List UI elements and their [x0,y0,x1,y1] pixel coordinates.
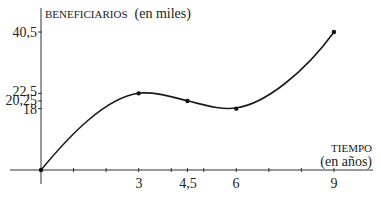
data-point [136,91,140,95]
y-axis-label-caps: BENEFICIARIOS [45,8,128,20]
x-tick-label-3: 3 [136,176,143,191]
data-point [234,106,238,110]
data-points [39,30,336,172]
x-axis-label-unit: (en años) [320,154,372,170]
y-axis-label-unit: (en miles) [135,6,192,22]
y-tick-label-40-5: 40,5 [13,25,38,40]
data-point [332,30,336,34]
chart-canvas: 3 4,5 6 9 40,5 22,5 20,25 18 BENEFICIARI… [0,0,381,198]
x-tick-label-6: 6 [233,176,240,191]
x-tick-label-9: 9 [331,176,338,191]
y-tick-label-18: 18 [23,102,37,117]
data-point [39,168,43,172]
y-axis-label: BENEFICIARIOS (en miles) [45,4,191,22]
x-axis-label-caps: TIEMPO [331,142,372,154]
x-tick-label-4-5: 4,5 [179,176,197,191]
data-point [185,99,189,103]
